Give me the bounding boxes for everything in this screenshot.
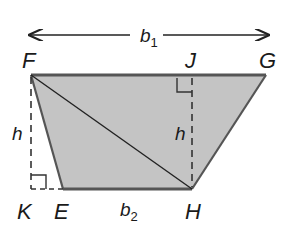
b2-label: b2: [120, 199, 138, 224]
right-angle-mark-K: [31, 175, 46, 189]
vertex-label-G: G: [259, 48, 276, 73]
vertex-label-J: J: [184, 48, 197, 73]
vertex-label-H: H: [185, 199, 201, 224]
vertex-label-K: K: [17, 199, 33, 224]
height-label-left: h: [12, 123, 23, 144]
b1-label: b1: [140, 25, 158, 50]
vertex-label-F: F: [22, 48, 37, 73]
trapezoid-diagram: b1 F J G K E H b2 h h: [0, 0, 288, 228]
vertex-label-E: E: [54, 199, 69, 224]
height-label-right: h: [175, 123, 186, 144]
trapezoid-shape: [31, 75, 266, 189]
